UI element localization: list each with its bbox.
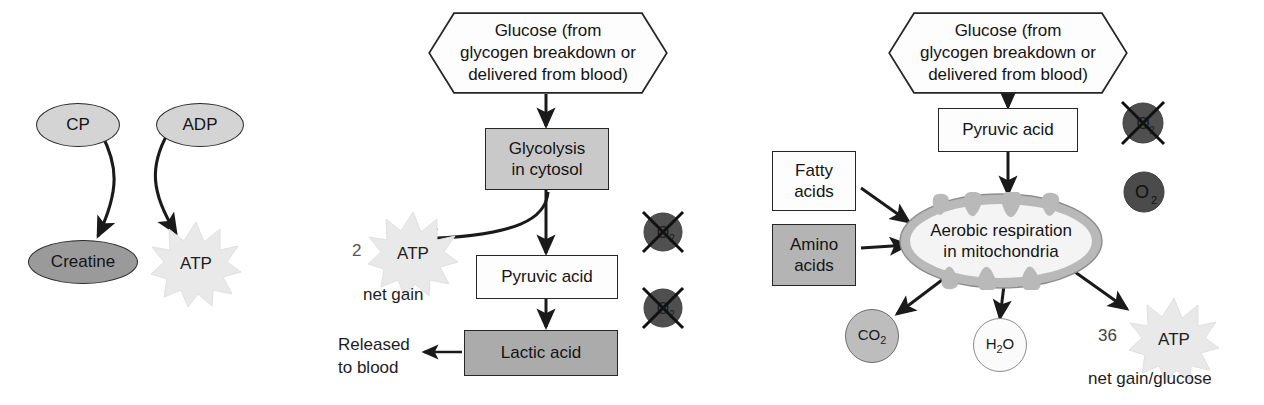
- node-creatine: Creatine: [28, 240, 138, 284]
- node-pyruvic-acid-aerobic: Pyruvic acid: [938, 108, 1078, 152]
- oxygen-marker-available: O 2: [1120, 168, 1168, 216]
- node-glucose-anaerobic-label: Glucose (from glycogen breakdown or deli…: [428, 20, 668, 86]
- node-lactic-acid: Lactic acid: [464, 330, 618, 376]
- no-oxygen-marker-aerobic: O 2: [1118, 98, 1168, 148]
- node-glycolysis-label: Glycolysis in cytosol: [509, 138, 586, 181]
- node-adp: ADP: [156, 103, 244, 147]
- label-net-gain-aerobic: net gain/glucose: [1088, 368, 1212, 390]
- label-net-gain-anaerobic: net gain: [363, 284, 424, 306]
- label-released-to-blood: Released to blood: [338, 334, 410, 380]
- node-pyruvic-acid-anaerobic: Pyruvic acid: [476, 255, 618, 299]
- svg-text:2: 2: [1151, 194, 1157, 206]
- node-fatty-acids-label: Fatty acids: [794, 160, 834, 203]
- node-atp-anaerobic-label: ATP: [367, 244, 459, 264]
- node-h2o: H2O: [973, 318, 1027, 372]
- node-amino-acids-label: Amino acids: [790, 234, 838, 277]
- svg-text:O: O: [1135, 182, 1149, 202]
- no-oxygen-marker-1: O 2: [639, 208, 687, 256]
- label-atp-count-anaerobic: 2: [352, 240, 361, 262]
- node-cp-label: CP: [66, 115, 90, 135]
- node-glycolysis: Glycolysis in cytosol: [485, 128, 609, 190]
- no-oxygen-marker-2: O 2: [639, 284, 687, 332]
- node-co2: CO2: [845, 309, 899, 363]
- node-atp-cp-burst: ATP: [150, 220, 242, 308]
- node-glucose-aerobic-label: Glucose (from glycogen breakdown or deli…: [888, 20, 1128, 86]
- node-h2o-label: H2O: [986, 335, 1015, 355]
- label-atp-count-aerobic: 36: [1098, 325, 1117, 347]
- node-amino-acids: Amino acids: [772, 224, 856, 286]
- node-adp-label: ADP: [183, 115, 218, 135]
- node-lactic-acid-label: Lactic acid: [501, 342, 581, 363]
- node-glucose-aerobic: Glucose (from glycogen breakdown or deli…: [888, 12, 1128, 94]
- node-mitochondria-label: Aerobic respiration in mitochondria: [898, 220, 1104, 263]
- node-mitochondria: Aerobic respiration in mitochondria: [898, 192, 1104, 290]
- node-co2-label: CO2: [858, 326, 887, 346]
- node-glucose-anaerobic: Glucose (from glycogen breakdown or deli…: [428, 12, 668, 94]
- node-fatty-acids: Fatty acids: [772, 151, 856, 211]
- node-atp-cp-label: ATP: [150, 254, 242, 274]
- diagram-canvas: CP ADP Creatine ATP Glucose (from glycog…: [0, 0, 1264, 405]
- node-pyruvic-acid-anaerobic-label: Pyruvic acid: [501, 266, 593, 287]
- node-creatine-label: Creatine: [51, 252, 115, 272]
- node-pyruvic-acid-aerobic-label: Pyruvic acid: [962, 119, 1054, 140]
- node-atp-aerobic-label: ATP: [1128, 330, 1220, 350]
- node-cp: CP: [36, 103, 120, 147]
